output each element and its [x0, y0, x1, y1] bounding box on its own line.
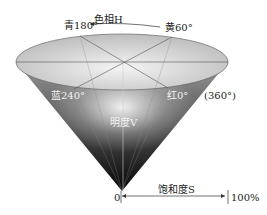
saturation-end-label: 100%	[231, 192, 260, 203]
hue-label-cyan: 青180°	[64, 20, 98, 31]
saturation-start-label: 0	[114, 192, 120, 203]
hue-label-red-360: (360°)	[204, 90, 236, 101]
hue-label-red: 红0°	[167, 90, 188, 101]
hue-label-yellow: 黄60°	[165, 22, 193, 33]
hue-label-blue: 蓝240°	[51, 90, 85, 101]
hue-axis-label: 色相H	[94, 14, 123, 25]
hsv-cone-diagram	[0, 0, 267, 215]
saturation-axis-label: 饱和度S	[158, 184, 195, 195]
value-axis-label: 明度V	[110, 117, 137, 128]
